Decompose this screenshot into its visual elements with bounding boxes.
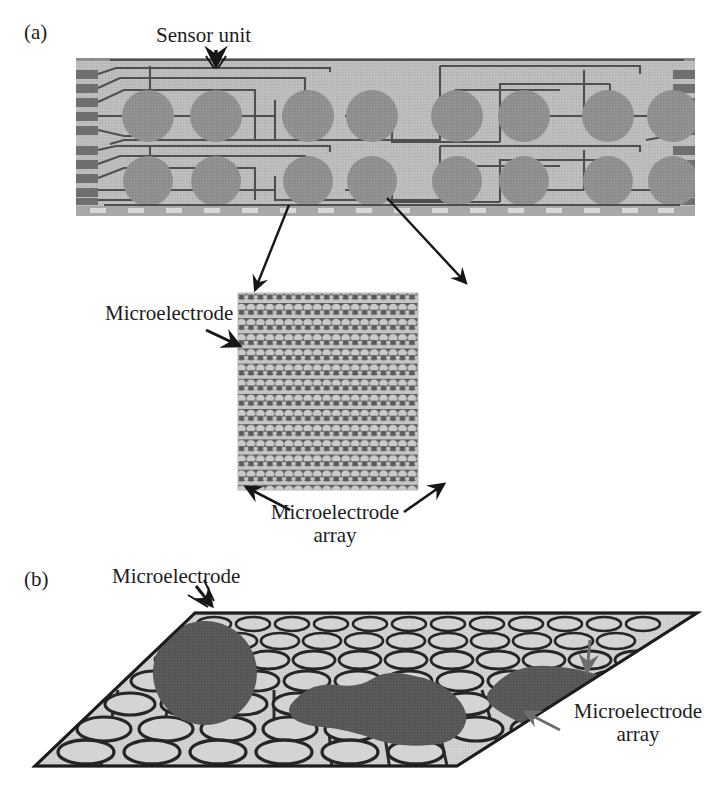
panel-b-tag: (b): [24, 568, 49, 592]
sensor-unit: [499, 156, 549, 206]
sensor-unit: [582, 90, 634, 142]
microelectrode-pointer-left: [206, 330, 240, 346]
array-label-line1: Microelectrode: [271, 500, 399, 524]
sensor-unit: [498, 90, 550, 142]
sensor-unit: [346, 90, 398, 142]
sensor-unit: [432, 156, 482, 206]
array-label-line2: array: [313, 523, 356, 547]
microelectrode-label-a: Microelectrode: [105, 302, 233, 326]
sensor-unit: [191, 156, 241, 206]
array-texture: [238, 293, 418, 490]
sensor-unit: [282, 90, 334, 142]
microelectrode-array-inset: [238, 293, 418, 490]
magnify-arrow-left: [255, 205, 289, 290]
sensor-unit: [123, 156, 173, 206]
sensor-unit: [283, 156, 333, 206]
sensor-unit: [431, 90, 483, 142]
sensor-chip: [76, 58, 699, 216]
figure-graphics: [0, 0, 722, 799]
sensor-unit: [583, 156, 633, 206]
sensor-unit: [347, 156, 397, 206]
array-label-b-line2: array: [616, 722, 659, 746]
sensor-unit: [122, 90, 174, 142]
sensor-unit-label: Sensor unit: [156, 24, 251, 48]
figure-container: (a) Sensor unit Microelectrode Microelec…: [0, 0, 722, 799]
sensor-unit: [190, 90, 242, 142]
microelectrode-label-b: Microelectrode: [112, 565, 240, 589]
sensor-unit: [647, 90, 699, 142]
array-label-b-line1: Microelectrode: [574, 699, 702, 723]
microelectrode-array-label-b: Microelectrodearray: [558, 700, 718, 746]
sensor-unit: [648, 156, 698, 206]
microelectrode-array-label-a: Microelectrodearray: [260, 501, 410, 547]
perspective-plate: [35, 613, 697, 770]
panel-a-tag: (a): [24, 21, 47, 45]
